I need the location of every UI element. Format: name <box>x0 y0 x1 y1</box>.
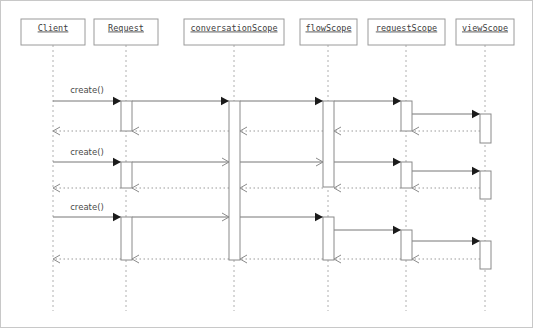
activation-bar-request <box>121 217 132 260</box>
activation-bar-viewScope <box>480 114 491 143</box>
diagram-svg: ClientRequestconversationScopeflowScoper… <box>1 1 533 328</box>
participant-label-conversationScope: conversationScope <box>191 23 278 33</box>
activation-bar-flowScope <box>323 101 334 187</box>
arrowhead-m2-4 <box>393 158 401 166</box>
activation-bar-viewScope <box>480 241 491 269</box>
participant-boxes-layer: ClientRequestconversationScopeflowScoper… <box>21 19 514 45</box>
activation-bar-requestScope <box>401 101 412 131</box>
activations-layer <box>121 101 491 269</box>
sequence-diagram-canvas: ClientRequestconversationScopeflowScoper… <box>0 0 533 328</box>
message-label-m3-1: create() <box>70 202 104 212</box>
activation-bar-requestScope <box>401 162 412 188</box>
message-label-m1-1: create() <box>70 85 104 95</box>
activation-bar-viewScope <box>480 171 491 199</box>
activation-bar-conversationScope <box>229 101 240 260</box>
lifelines-layer <box>53 45 485 311</box>
activation-bar-request <box>121 101 132 131</box>
participant-label-flowScope: flowScope <box>305 23 351 33</box>
activation-bar-flowScope <box>323 217 334 260</box>
message-label-m2-1: create() <box>70 147 104 157</box>
messages-layer <box>53 97 480 263</box>
arrowhead-m1-1 <box>113 97 121 105</box>
arrowhead-m1-2 <box>221 97 229 105</box>
participant-label-viewScope: viewScope <box>462 23 508 33</box>
arrowhead-m1-3 <box>315 97 323 105</box>
arrowhead-m2-1 <box>113 158 121 166</box>
arrowhead-m2-5 <box>472 167 480 175</box>
arrowhead-m1-5 <box>472 110 480 118</box>
message-labels-layer: create()create()create() <box>70 85 104 212</box>
participant-label-request: Request <box>108 23 144 33</box>
arrowhead-m3-3 <box>315 213 323 221</box>
activation-bar-requestScope <box>401 230 412 260</box>
arrowhead-m1-4 <box>393 97 401 105</box>
participant-label-requestScope: requestScope <box>376 23 437 33</box>
arrowhead-m3-4 <box>393 226 401 234</box>
activation-bar-request <box>121 162 132 188</box>
arrowhead-m3-1 <box>113 213 121 221</box>
participant-label-client: Client <box>38 23 69 33</box>
arrowhead-m3-5 <box>472 237 480 245</box>
